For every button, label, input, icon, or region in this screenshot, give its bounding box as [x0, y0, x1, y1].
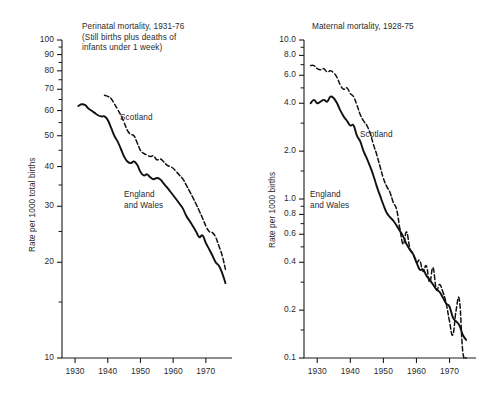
figure-two-mortality-charts: Perinatal mortality, 1931-76 (Still birt… [0, 0, 496, 407]
series-line-scotland [311, 65, 466, 359]
series-annotation-england-wales-perinatal: England and Wales [124, 190, 163, 211]
y-tick-label: 0.6 [258, 228, 296, 238]
y-tick-label: 0.1 [258, 352, 296, 362]
y-tick-label: 8.0 [258, 49, 296, 59]
y-tick-label: 40 [16, 161, 54, 171]
x-tick-label: 1930 [308, 366, 327, 376]
series-annotation-england-wales-maternal: England and Wales [310, 190, 349, 211]
y-tick-label: 6.0 [258, 69, 296, 79]
chart-panel-perinatal-mortality: Perinatal mortality, 1931-76 (Still birt… [0, 0, 248, 407]
x-tick-label: 1940 [341, 366, 360, 376]
plot-area-maternal [248, 0, 496, 407]
y-tick-label: 20 [16, 256, 54, 266]
y-tick-label: 50 [16, 130, 54, 140]
y-tick-label: 100 [16, 34, 54, 44]
series-annotation-scotland-maternal: Scotland [360, 130, 393, 141]
chart-title-perinatal: Perinatal mortality, 1931-76 (Still birt… [82, 22, 184, 54]
x-tick-label: 1960 [164, 366, 183, 376]
chart-panel-maternal-mortality: Maternal mortality, 1928-75 Rate per 100… [248, 0, 496, 407]
y-tick-label: 2.0 [258, 145, 296, 155]
y-tick-label: 30 [16, 200, 54, 210]
y-tick-label: 70 [16, 83, 54, 93]
y-tick-label: 0.8 [258, 208, 296, 218]
x-tick-label: 1930 [66, 366, 85, 376]
y-tick-label: 10.0 [258, 34, 296, 44]
series-annotation-scotland-perinatal: Scotland [120, 113, 153, 124]
y-tick-label: 0.4 [258, 256, 296, 266]
x-tick-label: 1950 [374, 366, 393, 376]
x-tick-label: 1970 [440, 366, 459, 376]
x-tick-label: 1970 [196, 366, 215, 376]
y-tick-label: 0.2 [258, 304, 296, 314]
x-tick-label: 1950 [131, 366, 150, 376]
x-tick-label: 1940 [98, 366, 117, 376]
x-tick-label: 1960 [407, 366, 426, 376]
y-tick-label: 80 [16, 65, 54, 75]
chart-title-maternal: Maternal mortality, 1928-75 [312, 22, 414, 33]
y-tick-label: 90 [16, 49, 54, 59]
y-tick-label: 60 [16, 105, 54, 115]
y-tick-label: 10 [16, 352, 54, 362]
y-tick-label: 1.0 [258, 193, 296, 203]
y-tick-label: 4.0 [258, 97, 296, 107]
